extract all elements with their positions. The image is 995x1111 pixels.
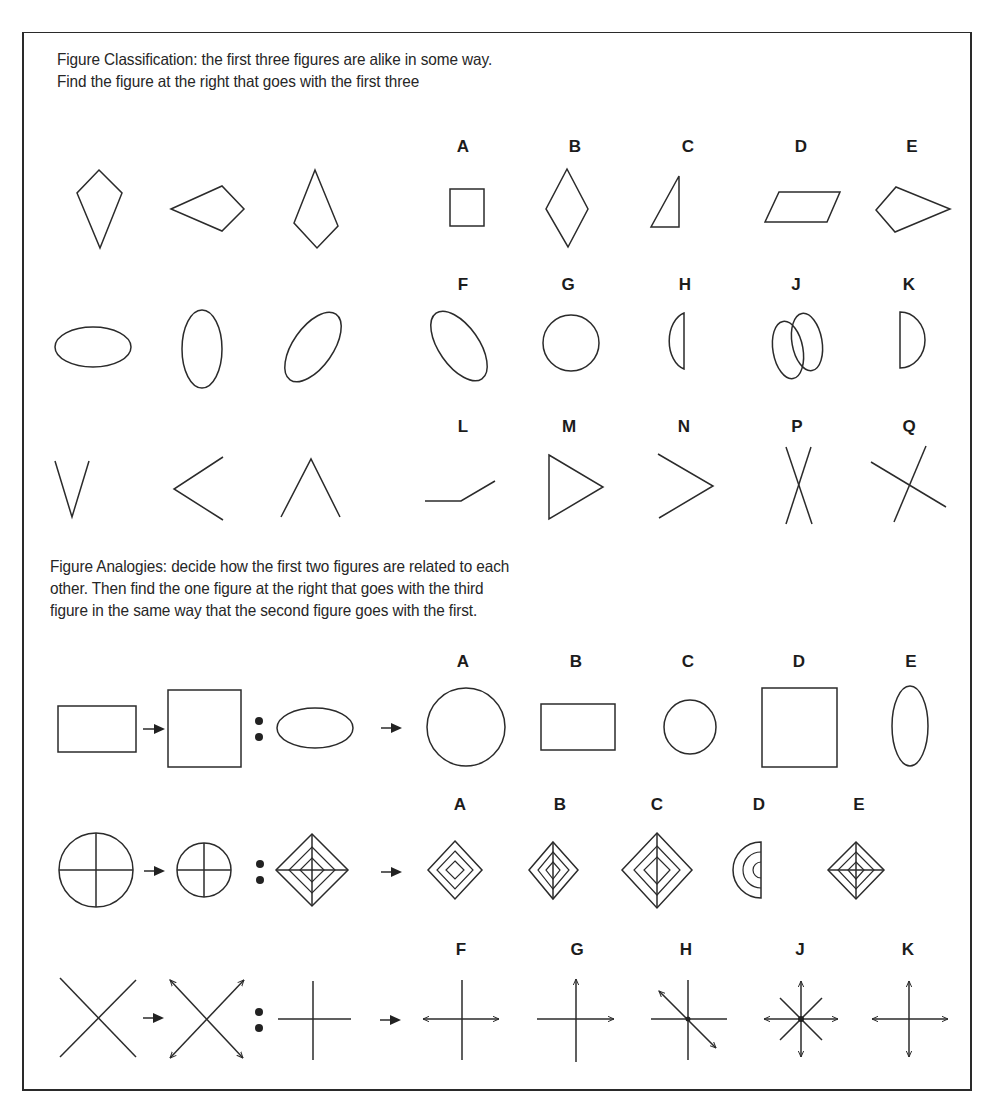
angle-pointing-right-option[interactable] (658, 454, 713, 518)
option-label: E (905, 652, 916, 671)
option-label: E (853, 795, 864, 814)
option-label: B (554, 795, 566, 814)
option-label: G (561, 275, 574, 294)
right-triangle-option[interactable] (651, 176, 679, 227)
half-circle-right-option[interactable] (900, 312, 925, 368)
v-angle-figure (55, 461, 89, 517)
small-concentric-diamonds-with-cross-option[interactable] (828, 842, 884, 899)
option-label: H (680, 940, 692, 959)
colon-icon (256, 860, 264, 884)
two-overlapping-ellipses-option[interactable] (768, 311, 827, 381)
option-label: E (906, 137, 917, 156)
tall-rectangle-figure (168, 690, 241, 767)
classification-row-3: L M N P Q (55, 417, 946, 524)
arrow-right-icon (380, 1015, 401, 1025)
horizontal-ellipse-figure (55, 327, 131, 367)
figures-canvas: A B C D E F G H J (0, 0, 995, 1111)
plus-lines-figure (278, 981, 351, 1060)
plus-with-diagonal-arrow-option[interactable] (651, 980, 727, 1060)
kite-pointing-left-figure (171, 186, 244, 231)
wide-rectangle-figure (58, 706, 136, 752)
option-label: H (679, 275, 691, 294)
option-label: M (562, 417, 576, 436)
analogies-row-3: F G H J (60, 940, 948, 1062)
option-label: C (682, 137, 694, 156)
concentric-diamonds-option[interactable] (428, 841, 482, 899)
kite-pointing-down-figure (77, 170, 122, 248)
concentric-diamonds-with-cross-figure (276, 834, 348, 906)
plus-four-arrows-option[interactable] (872, 981, 948, 1057)
circle-option[interactable] (543, 315, 599, 371)
small-circle-with-cross-figure (177, 843, 231, 897)
option-label: B (569, 137, 581, 156)
kite-pointing-up-figure (294, 170, 338, 248)
option-label: P (791, 417, 802, 436)
option-label: F (456, 940, 466, 959)
small-circle-option[interactable] (664, 700, 716, 754)
concentric-diamonds-vertical-line-option[interactable] (529, 842, 578, 899)
square-option[interactable] (450, 189, 484, 226)
caret-angle-figure (281, 459, 340, 517)
classification-row-2: F G H J K (55, 275, 925, 391)
option-label: N (678, 417, 690, 436)
option-label: K (902, 940, 915, 959)
colon-icon (255, 1008, 263, 1032)
option-label: J (791, 275, 800, 294)
narrow-cross-option[interactable] (786, 447, 812, 524)
tilted-cross-option[interactable] (871, 446, 946, 522)
plus-horizontal-arrows-option[interactable] (423, 980, 499, 1060)
arrow-right-icon (381, 867, 402, 877)
option-label: L (458, 417, 468, 436)
option-label: G (570, 940, 583, 959)
analogies-row-1: A B C D E (58, 652, 928, 767)
arrow-right-icon (143, 724, 165, 734)
large-concentric-diamonds-vertical-line-option[interactable] (622, 833, 692, 908)
option-label: B (570, 652, 582, 671)
x-lines-figure (60, 978, 136, 1057)
option-label: K (903, 275, 916, 294)
wide-rectangle-option[interactable] (541, 704, 615, 750)
option-label: C (651, 795, 663, 814)
tilted-right-ellipse-figure (274, 303, 353, 391)
tilted-left-ellipse-option[interactable] (420, 302, 499, 390)
option-label: A (454, 795, 466, 814)
triangle-pointing-right-option[interactable] (549, 455, 603, 519)
option-label: D (795, 137, 807, 156)
rhombus-option[interactable] (546, 169, 588, 247)
bent-line-option[interactable] (425, 481, 495, 501)
star-with-arrows-option[interactable] (764, 981, 838, 1057)
large-circle-option[interactable] (427, 688, 505, 766)
large-circle-with-cross-figure (59, 833, 133, 907)
classification-row-1: A B C D E (77, 137, 950, 248)
option-label: A (457, 137, 469, 156)
option-label: Q (902, 417, 915, 436)
colon-icon (255, 717, 263, 741)
large-square-option[interactable] (762, 688, 837, 767)
analogies-row-2: A B C D (59, 795, 884, 908)
parallelogram-option[interactable] (765, 192, 840, 222)
option-label: D (753, 795, 765, 814)
plus-right-and-up-arrows-option[interactable] (537, 979, 614, 1062)
option-label: J (795, 940, 804, 959)
kite-pointing-right-option[interactable] (876, 187, 950, 232)
worksheet-page: Figure Classification: the first three f… (0, 0, 995, 1111)
narrow-tall-ellipse-option[interactable] (892, 686, 928, 766)
arrow-right-icon (143, 1013, 164, 1023)
concentric-half-circles-option[interactable] (733, 842, 761, 898)
wide-ellipse-figure (277, 708, 353, 748)
left-angle-figure (174, 457, 223, 520)
option-label: D (793, 652, 805, 671)
option-label: A (457, 652, 469, 671)
vertical-ellipse-figure (182, 310, 222, 388)
arrow-right-icon (381, 723, 402, 733)
arrow-right-icon (144, 866, 165, 876)
x-lines-with-arrowheads-figure (170, 980, 244, 1058)
half-circle-left-option[interactable] (669, 313, 684, 369)
option-label: C (682, 652, 694, 671)
option-label: F (458, 275, 468, 294)
